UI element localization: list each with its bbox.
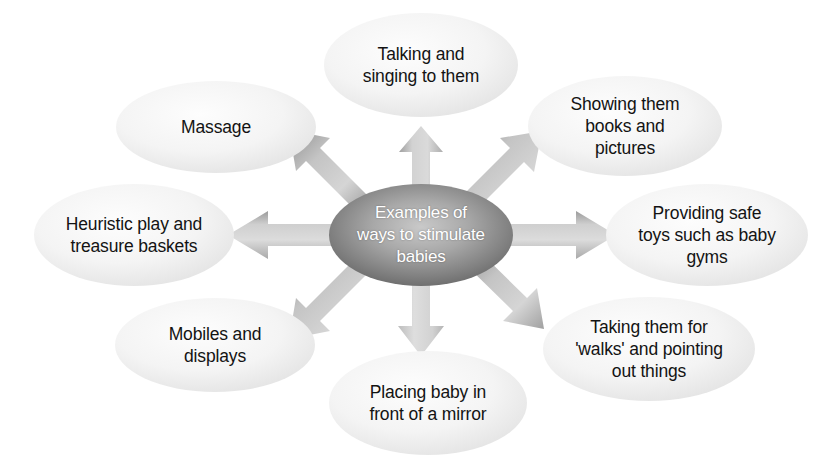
node-mobiles-displays-shape[interactable] [115,298,315,392]
diagram-canvas [0,0,836,464]
node-providing-toys-shape[interactable] [606,184,808,286]
node-heuristic-play-shape[interactable] [34,184,234,286]
node-talking-singing-shape[interactable] [324,13,518,117]
mind-map-diagram: Talking and singing to them Massage Show… [0,0,836,464]
node-taking-walks-shape[interactable] [543,297,755,401]
arrow-left [228,211,336,259]
center-node-shape[interactable] [329,184,513,286]
arrow-right [506,211,616,259]
arrow-down [398,280,444,356]
node-massage-shape[interactable] [116,81,316,173]
arrow-up [399,126,443,190]
node-mirror-shape[interactable] [329,351,527,455]
node-showing-books-shape[interactable] [528,76,722,176]
